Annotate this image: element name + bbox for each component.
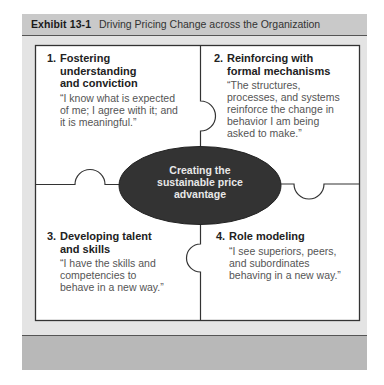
quote-line: reinforce the change in: [227, 103, 354, 115]
quadrant-1: 1. Fostering understanding and convictio…: [47, 52, 197, 128]
quadrant-number: 4.: [216, 230, 229, 243]
center-line-1: Creating the: [140, 164, 260, 176]
quote-line: and subordinates: [229, 257, 356, 269]
quote-line: competencies to: [60, 269, 197, 281]
heading-line: Role modeling: [229, 230, 305, 243]
quadrant-number: 3.: [47, 230, 60, 255]
heading-line: Developing talent: [60, 230, 152, 243]
center-line-3: advantage: [140, 188, 260, 200]
center-line-2: sustainable price: [140, 176, 260, 188]
heading-line: formal mechanisms: [227, 65, 330, 78]
quadrant-quote: “I have the skills and competencies to b…: [60, 257, 197, 293]
quadrant-number: 1.: [47, 52, 60, 90]
quadrant-number: 2.: [214, 52, 227, 77]
quote-line: it is meaningful.”: [60, 116, 197, 128]
quadrant-quote: “The structures, processes, and systems …: [227, 79, 354, 139]
quadrant-2: 2. Reinforcing with formal mechanisms “T…: [214, 52, 354, 139]
quote-line: behaving in a new way.”: [229, 269, 356, 281]
heading-line: Reinforcing with: [227, 52, 330, 65]
quote-line: behavior I am being: [227, 115, 354, 127]
quote-line: “The structures,: [227, 79, 354, 91]
quadrant-heading: 3. Developing talent and skills: [47, 230, 197, 255]
quote-line: processes, and systems: [227, 91, 354, 103]
quote-line: of me; I agree with it; and: [60, 104, 197, 116]
quote-line: behave in a new way.”: [60, 281, 197, 293]
quadrant-heading: 1. Fostering understanding and convictio…: [47, 52, 197, 90]
quadrant-quote: “I know what is expected of me; I agree …: [60, 92, 197, 128]
quote-line: asked to make.”: [227, 127, 354, 139]
quadrant-quote: “I see superiors, peers, and subordinate…: [229, 245, 356, 281]
heading-line: Fostering: [60, 52, 138, 65]
heading-line: and conviction: [60, 77, 138, 90]
quote-line: “I see superiors, peers,: [229, 245, 356, 257]
quote-line: “I have the skills and: [60, 257, 197, 269]
quadrant-heading: 2. Reinforcing with formal mechanisms: [214, 52, 354, 77]
heading-line: and skills: [60, 243, 152, 256]
quadrant-3: 3. Developing talent and skills “I have …: [47, 230, 197, 293]
quote-line: “I know what is expected: [60, 92, 197, 104]
heading-line: understanding: [60, 65, 138, 78]
quadrant-4: 4. Role modeling “I see superiors, peers…: [216, 230, 356, 281]
center-label: Creating the sustainable price advantage: [140, 164, 260, 200]
quadrant-heading: 4. Role modeling: [216, 230, 356, 243]
